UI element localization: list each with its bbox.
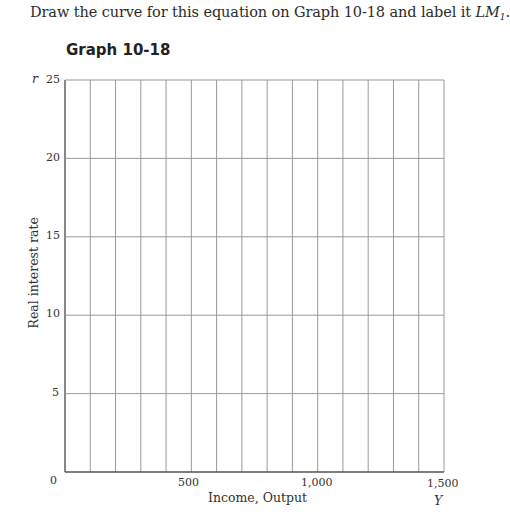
y-tick-10: 10: [46, 307, 60, 320]
y-tick-15: 15: [46, 229, 60, 242]
instruction-period: .: [505, 4, 510, 20]
x-tick-1000: 1,000: [301, 476, 333, 489]
x-axis-label: Income, Output: [208, 490, 307, 505]
x-axis-variable: Y: [434, 493, 442, 508]
x-tick-500: 500: [178, 476, 199, 489]
y-tick-25: 25: [46, 73, 60, 86]
origin-label: 0: [50, 474, 57, 487]
y-axis-label: Real interest rate: [26, 219, 41, 329]
x-tick-1500: 1,500: [427, 477, 459, 490]
y-tick-5: 5: [52, 386, 59, 399]
y-tick-20: 20: [46, 151, 60, 164]
y-axis-variable: r: [32, 71, 38, 86]
